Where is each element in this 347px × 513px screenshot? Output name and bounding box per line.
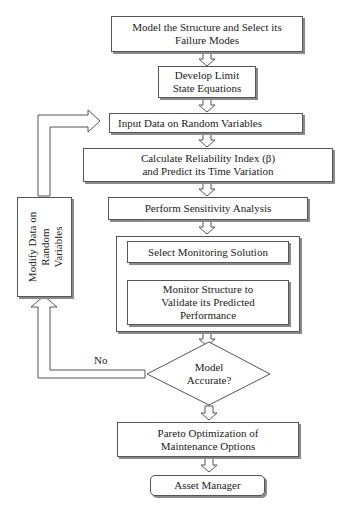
step-text: Pareto Optimization of xyxy=(158,427,259,440)
step-text: Performance xyxy=(161,309,254,322)
arrow-limit-to-input xyxy=(199,98,215,112)
step-text: Model the Structure and Select its xyxy=(132,21,281,34)
feedback-line: Modify Data on xyxy=(25,212,38,282)
step-text: Failure Modes xyxy=(132,34,281,47)
step-input-data: Input Data on Random Variables xyxy=(109,113,303,133)
arrow-input-to-reliability xyxy=(199,133,215,147)
no-label: No xyxy=(94,354,107,367)
step-model-structure: Model the Structure and Select itsFailur… xyxy=(111,16,303,52)
step-asset-manager: Asset Manager xyxy=(150,475,265,496)
step-text: Monitor Structure to xyxy=(161,283,254,296)
feedback-text: Modify Data on Random Variables xyxy=(25,212,64,282)
step-limit-state: Develop LimitState Equations xyxy=(158,66,256,98)
step-text: Asset Manager xyxy=(174,479,240,492)
step-text: Calculate Reliability Index (β) xyxy=(141,152,275,165)
step-text: Perform Sensitivity Analysis xyxy=(145,202,272,215)
arrow-reliability-to-sensitivity xyxy=(199,182,215,196)
step-text: Develop Limit xyxy=(173,69,242,82)
arrow-sensitivity-to-monitoring xyxy=(199,220,215,234)
feedback-line: Random xyxy=(38,212,51,282)
step-select-monitoring: Select Monitoring Solution xyxy=(127,241,289,263)
step-pareto: Pareto Optimization ofMaintenance Option… xyxy=(117,422,299,457)
step-text: Input Data on Random Variables xyxy=(118,117,262,130)
arrow-model-to-limit xyxy=(199,52,215,66)
step-text: State Equations xyxy=(173,82,242,95)
step-reliability-index: Calculate Reliability Index (β)and Predi… xyxy=(83,148,333,182)
arrow-pareto-to-asset xyxy=(201,458,217,472)
step-text: and Predict its Time Variation xyxy=(141,165,275,178)
decision-label: Model Accurate? xyxy=(169,361,249,387)
arrow-decision-to-pareto xyxy=(201,406,217,420)
decision-text: Accurate? xyxy=(169,374,249,387)
step-monitor-structure: Monitor Structure toValidate its Predict… xyxy=(127,280,289,325)
step-text: Maintenance Options xyxy=(158,440,259,453)
feedback-line: Variables xyxy=(51,212,64,282)
feedback-modify-data: Modify Data on Random Variables xyxy=(17,197,72,297)
step-sensitivity: Perform Sensitivity Analysis xyxy=(108,197,308,220)
decision-text: Model xyxy=(169,361,249,374)
step-text: Validate its Predicted xyxy=(161,296,254,309)
step-text: Select Monitoring Solution xyxy=(148,246,268,259)
